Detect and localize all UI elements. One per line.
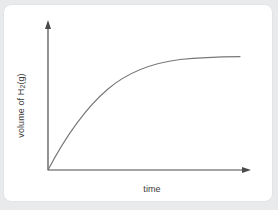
chart-figure: volume of H2(g) time <box>4 5 272 201</box>
saturation-curve <box>48 57 240 170</box>
y-axis-label-suffix: (g) <box>16 73 26 84</box>
y-axis-label: volume of H2(g) <box>17 56 26 156</box>
figure-card: volume of H2(g) time <box>4 5 272 201</box>
y-axis-arrowhead-icon <box>45 20 51 29</box>
chart-svg <box>4 5 272 201</box>
x-axis-label: time <box>102 185 202 194</box>
y-axis-label-prefix: volume of H <box>16 89 26 138</box>
figure-page: volume of H2(g) time <box>0 0 278 210</box>
x-axis-arrowhead-icon <box>242 167 251 173</box>
y-axis-label-subscript: 2 <box>19 85 26 89</box>
